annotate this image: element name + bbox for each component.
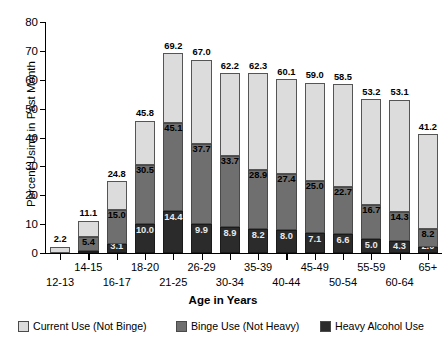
bar-value-label-heavy: 8.9	[220, 229, 240, 238]
x-tick-label: 65+	[408, 262, 446, 273]
bar-total-label: 41.2	[418, 123, 438, 132]
x-tick-mark	[117, 253, 118, 260]
y-tick-label: 10	[12, 219, 38, 229]
bar-value-label-binge: 37.7	[191, 145, 211, 154]
plot-area: 2.20.65.411.13.115.024.810.030.545.814.4…	[46, 22, 442, 253]
bar-segment-current	[305, 83, 325, 181]
bar-value-label-binge: 28.9	[248, 171, 268, 180]
bar-total-label: 59.0	[305, 71, 325, 80]
bar-total-label: 62.3	[248, 62, 268, 71]
x-tick-label: 40-44	[266, 277, 306, 288]
bar-group: 8.933.762.2	[220, 22, 240, 253]
bar-total-label: 53.1	[389, 88, 409, 97]
y-tick-label: 50	[12, 104, 38, 114]
y-tick-label: 30	[12, 161, 38, 171]
bar-group: 10.030.545.8	[135, 22, 155, 253]
bar-group: 8.228.962.3	[248, 22, 268, 253]
y-tick-mark	[40, 22, 45, 23]
y-tick-mark	[40, 195, 45, 196]
bar-value-label-heavy: 8.2	[248, 231, 268, 240]
bar-segment-current	[135, 121, 155, 165]
bar-total-label: 11.1	[78, 209, 98, 218]
bar-group: 3.115.024.8	[107, 22, 127, 253]
bar-segment-binge	[163, 123, 183, 212]
legend-label: Current Use (Not Binge)	[33, 320, 147, 332]
bar-segment-current	[276, 79, 296, 173]
bar-total-label: 24.8	[107, 170, 127, 179]
bar-segment-binge	[220, 156, 240, 228]
y-tick-label: 20	[12, 190, 38, 200]
y-tick-mark	[40, 166, 45, 167]
chart-legend: Current Use (Not Binge)Binge Use (Not He…	[0, 320, 446, 340]
x-tick-label: 50-54	[323, 277, 363, 288]
bar-group: 2.2	[50, 22, 70, 253]
x-tick-mark	[173, 253, 174, 260]
bar-total-label: 45.8	[135, 109, 155, 118]
bar-value-label-binge: 22.7	[333, 188, 353, 197]
bar-value-label-heavy: 4.3	[389, 242, 409, 251]
x-tick-mark	[202, 253, 203, 260]
x-axis-title: Age in Years	[0, 294, 446, 306]
bar-group: 5.016.753.2	[361, 22, 381, 253]
bar-group: 2.08.241.2	[418, 22, 438, 253]
bar-segment-current	[389, 100, 409, 212]
bar-segment-current	[191, 60, 211, 145]
x-tick-mark	[145, 253, 146, 260]
bar-segment-current	[78, 221, 98, 237]
x-tick-mark	[371, 253, 372, 260]
bar-group: 4.314.353.1	[389, 22, 409, 253]
bar-value-label-binge: 33.7	[220, 157, 240, 166]
x-tick-label: 60-64	[380, 277, 420, 288]
x-tick-mark	[258, 253, 259, 260]
bar-segment-current	[107, 181, 127, 209]
bar-total-label: 58.5	[333, 73, 353, 82]
y-tick-mark	[40, 224, 45, 225]
bar-value-label-heavy: 8.0	[276, 232, 296, 241]
bar-value-label-binge: 45.1	[163, 124, 183, 133]
bar-group: 6.622.758.5	[333, 22, 353, 253]
bar-value-label-binge: 14.3	[389, 213, 409, 222]
x-tick-mark	[428, 253, 429, 260]
bar-value-label-binge: 27.4	[276, 175, 296, 184]
bar-group: 9.937.767.0	[191, 22, 211, 253]
legend-swatch	[176, 321, 187, 332]
bar-value-label-binge: 5.4	[78, 238, 98, 247]
bar-segment-current	[418, 134, 438, 229]
x-tick-label: 55-59	[351, 262, 391, 273]
x-tick-mark	[315, 253, 316, 260]
y-tick-label: 60	[12, 75, 38, 85]
legend-swatch	[320, 321, 331, 332]
bar-segment-current	[248, 73, 268, 169]
x-tick-label: 35-39	[238, 262, 278, 273]
x-tick-label: 14-15	[68, 262, 108, 273]
x-tick-label: 18-20	[125, 262, 165, 273]
bar-segment-current	[333, 84, 353, 187]
x-tick-mark	[286, 253, 287, 260]
legend-item: Heavy Alcohol Use	[320, 320, 424, 332]
bar-value-label-heavy: 9.9	[191, 226, 211, 235]
bar-segment-current	[163, 53, 183, 123]
x-tick-mark	[400, 253, 401, 260]
x-tick-label: 12-13	[40, 277, 80, 288]
x-tick-mark	[230, 253, 231, 260]
bar-group: 7.125.059.0	[305, 22, 325, 253]
y-tick-label: 0	[12, 248, 38, 258]
bar-total-label: 53.2	[361, 88, 381, 97]
y-tick-label: 70	[12, 46, 38, 56]
legend-label: Heavy Alcohol Use	[335, 320, 424, 332]
bar-value-label-binge: 25.0	[305, 182, 325, 191]
x-tick-mark	[88, 253, 89, 260]
x-tick-mark	[343, 253, 344, 260]
x-tick-label: 21-25	[153, 277, 193, 288]
bar-value-label-binge: 15.0	[107, 211, 127, 220]
bar-total-label: 62.2	[220, 62, 240, 71]
bar-value-label-heavy: 14.4	[163, 213, 183, 222]
y-tick-mark	[40, 253, 45, 254]
bar-group: 14.445.169.2	[163, 22, 183, 253]
x-tick-mark	[60, 253, 61, 260]
bar-value-label-binge: 8.2	[418, 230, 438, 239]
x-tick-label: 30-34	[210, 277, 250, 288]
bar-segment-binge	[191, 144, 211, 224]
bar-group: 0.65.411.1	[78, 22, 98, 253]
y-tick-label: 80	[12, 17, 38, 27]
